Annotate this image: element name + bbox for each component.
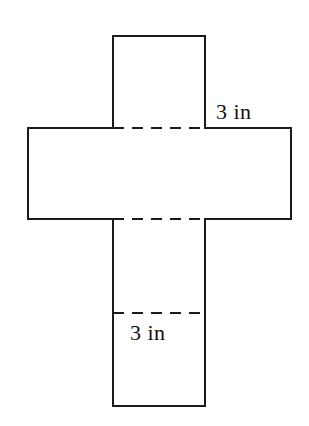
horizontal-strip-face [28,128,291,219]
dimension-label-bottom: 3 in [130,320,166,346]
cube-net-svg [0,0,309,426]
vertical-strip-face [113,36,205,406]
cube-net-figure: 3 in 3 in [0,0,309,426]
dimension-label-top-right: 3 in [216,99,252,125]
